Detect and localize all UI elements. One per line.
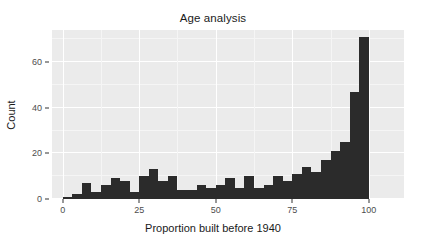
x-axis-title-label: Proportion built before 1940 [0,222,426,234]
y-axis-tick-label: 40 [32,103,42,113]
histogram-bar [321,160,331,199]
x-axis-tick-mark [368,199,369,203]
histogram-bar [120,181,130,199]
y-axis-tick-label: 60 [32,57,42,67]
histogram-bar [130,192,140,199]
x-axis-tick-mark [292,199,293,203]
histogram-bar [359,37,369,199]
histogram-bar [158,181,168,199]
histogram-bar [216,185,226,199]
histogram-bar [331,151,341,199]
histogram-bar [273,176,283,199]
histogram-bar [82,183,92,199]
y-axis-title-label: Count [5,100,17,129]
histogram-bar [302,167,312,199]
y-axis-tick-label: 0 [37,194,42,204]
y-axis-tick-mark [45,107,49,108]
y-axis-title: Count [4,30,18,199]
histogram-bar [111,178,121,199]
histogram-bar [264,185,274,199]
histogram-bar [350,92,360,199]
histogram-bar [244,176,254,199]
x-axis-tick-label: 0 [60,205,65,215]
histogram-bar [254,188,264,199]
histogram-bar [283,181,293,199]
histogram-bars [52,30,404,199]
histogram-bar [91,192,101,199]
x-axis: 0255075100 [52,199,404,221]
histogram-bar [235,188,245,199]
histogram-bar [187,190,197,199]
x-axis-tick-label: 50 [211,205,221,215]
histogram-bar [311,172,321,199]
histogram-bar [168,176,178,199]
histogram-bar [149,169,159,199]
histogram-bar [206,188,216,199]
chart-title: Age analysis [0,12,426,24]
x-axis-tick-label: 75 [287,205,297,215]
x-axis-tick-label: 100 [361,205,376,215]
x-axis-tick-mark [215,199,216,203]
y-axis-tick-mark [45,61,49,62]
histogram-bar [340,142,350,199]
chart-figure: Age analysis 0204060 Count 0255075100 Pr… [0,0,426,246]
histogram-bar [101,185,111,199]
histogram-bar [225,178,235,199]
x-axis-tick-mark [62,199,63,203]
x-axis-tick-mark [139,199,140,203]
y-axis-tick-mark [45,153,49,154]
y-axis-tick-label: 20 [32,148,42,158]
histogram-bar [197,185,207,199]
histogram-bar [177,190,187,199]
histogram-bar [292,174,302,199]
x-axis-tick-label: 25 [134,205,144,215]
y-axis-tick-mark [45,199,49,200]
plot-panel [52,30,404,199]
histogram-bar [139,176,149,199]
